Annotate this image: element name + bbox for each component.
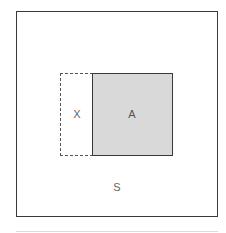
set-a-label: A: [128, 108, 135, 120]
set-x-label: X: [73, 108, 80, 120]
bottom-divider: [16, 231, 218, 232]
universe-label: S: [113, 181, 120, 193]
